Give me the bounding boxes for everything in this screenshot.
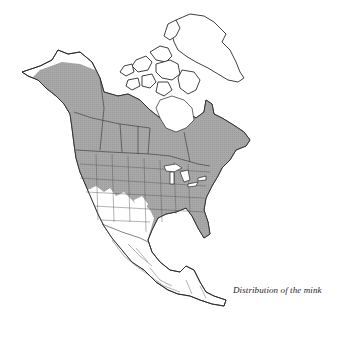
mink-range-shading bbox=[30, 62, 256, 270]
figure-caption: Distribution of the mink bbox=[233, 285, 322, 295]
